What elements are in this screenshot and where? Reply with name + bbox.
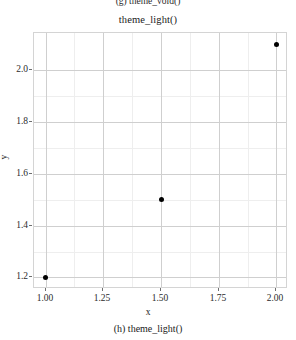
y-axis-tick-label: 1.2 (0, 271, 28, 281)
data-point (43, 275, 48, 280)
y-axis-title: y (0, 155, 9, 160)
gridline-major-vertical (103, 33, 104, 287)
gridline-minor-vertical (190, 33, 191, 287)
gridline-minor-horizontal (34, 252, 286, 253)
y-axis-tick-mark (29, 121, 32, 122)
gridline-major-horizontal (34, 122, 286, 123)
gridline-major-horizontal (34, 277, 286, 278)
gridline-minor-vertical (248, 33, 249, 287)
data-point (159, 197, 164, 202)
gridline-major-vertical (161, 33, 162, 287)
y-axis-tick-label: 1.4 (0, 220, 28, 230)
x-axis-tick-label: 1.25 (82, 293, 122, 303)
gridline-major-vertical (46, 33, 47, 287)
y-axis-tick-label: 1.8 (0, 116, 28, 126)
data-point (274, 42, 279, 47)
x-axis-tick-mark (275, 288, 276, 291)
x-axis-tick-mark (160, 288, 161, 291)
gridline-minor-horizontal (34, 96, 286, 97)
gridline-major-vertical (219, 33, 220, 287)
y-axis-tick-mark (29, 225, 32, 226)
gridline-minor-vertical (74, 33, 75, 287)
x-axis-tick-mark (45, 288, 46, 291)
x-axis-tick-label: 1.75 (198, 293, 238, 303)
gridline-major-horizontal (34, 174, 286, 175)
gridline-minor-horizontal (34, 148, 286, 149)
figure-caption: (h) theme_light() (0, 323, 296, 334)
gridline-minor-vertical (132, 33, 133, 287)
y-axis-tick-mark (29, 173, 32, 174)
y-axis-tick-mark (29, 69, 32, 70)
gridline-major-horizontal (34, 226, 286, 227)
x-axis-title: x (0, 307, 296, 317)
previous-figure-caption: (g) theme_void() (0, 0, 296, 6)
gridline-major-horizontal (34, 70, 286, 71)
plot-panel (33, 32, 287, 288)
x-axis-tick-mark (218, 288, 219, 291)
y-axis-tick-mark (29, 276, 32, 277)
y-axis-tick-label: 1.6 (0, 168, 28, 178)
x-axis-tick-label: 1.00 (25, 293, 65, 303)
plot-title: theme_light() (0, 14, 296, 25)
x-axis-tick-label: 1.50 (140, 293, 180, 303)
x-axis-tick-label: 2.00 (255, 293, 295, 303)
gridline-major-vertical (276, 33, 277, 287)
y-axis-tick-label: 2.0 (0, 64, 28, 74)
x-axis-tick-mark (102, 288, 103, 291)
